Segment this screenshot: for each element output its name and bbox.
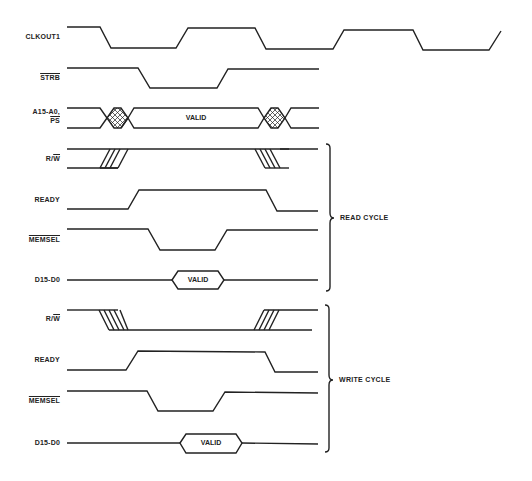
write-ready-label: READY [0,356,60,363]
read-rw-label-w: W [53,155,60,162]
read-memsel-label: MEMSEL [0,236,60,243]
read-ready-waveform [67,190,318,211]
clkout1-label: CLKOUT1 [0,33,60,40]
read-rw-label: R/W [0,155,60,162]
address-label-line1: A15-A0, [0,108,60,115]
strb-label: STRB [0,74,60,81]
read-rw-waveform [67,149,318,168]
read-data-label: D15-D0 [0,276,60,283]
write-cycle-label: WRITE CYCLE [339,376,391,383]
address-valid-label: VALID [128,114,264,121]
write-rw-label: R/W [0,315,60,322]
read-data-valid-label: VALID [172,276,224,283]
write-data-valid-label: VALID [180,439,242,446]
read-cycle-brace [326,144,334,291]
write-memsel-waveform [67,391,318,411]
write-data-label: D15-D0 [0,439,60,446]
write-memsel-label: MEMSEL [0,397,60,404]
read-ready-label: READY [0,196,60,203]
address-label: A15-A0, PS [0,108,60,124]
address-label-line2: PS [0,117,60,124]
read-memsel-waveform [67,229,318,250]
strb-waveform [67,68,319,88]
write-rw-label-w: W [53,315,60,322]
clkout1-waveform [67,27,501,50]
write-cycle-brace [325,305,333,452]
write-ready-waveform [67,351,318,372]
write-rw-waveform [67,310,318,330]
timing-diagram [0,0,532,481]
read-cycle-label: READ CYCLE [340,214,389,221]
